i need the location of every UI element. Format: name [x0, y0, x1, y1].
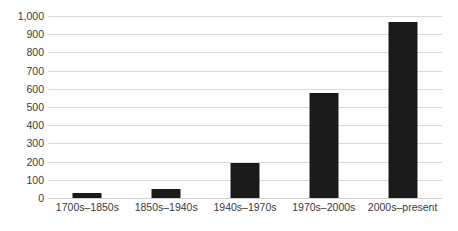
axis-baseline [48, 198, 442, 199]
y-axis-tick-label: 900 [0, 29, 44, 40]
y-axis-tick-label: 300 [0, 138, 44, 149]
y-axis: 01002003004005006007008009001,000 [0, 16, 44, 198]
x-axis-tick-label: 1700s–1850s [56, 201, 119, 214]
y-axis-tick-label: 100 [0, 175, 44, 186]
bars-layer [48, 16, 442, 198]
bar [152, 189, 181, 198]
x-axis-tick-label: 2000s–present [368, 201, 437, 214]
bar [309, 93, 338, 198]
bar-chart: 01002003004005006007008009001,000 1700s–… [0, 0, 458, 231]
y-axis-tick-label: 400 [0, 120, 44, 131]
x-axis-tick-label: 1940s–1970s [213, 201, 276, 214]
y-axis-tick-label: 0 [0, 193, 44, 204]
y-axis-tick-label: 700 [0, 65, 44, 76]
x-axis: 1700s–1850s1850s–1940s1940s–1970s1970s–2… [48, 201, 442, 221]
x-axis-tick-label: 1850s–1940s [135, 201, 198, 214]
y-axis-tick-label: 200 [0, 156, 44, 167]
y-axis-tick-label: 600 [0, 84, 44, 95]
y-axis-tick-label: 800 [0, 47, 44, 58]
bar [231, 163, 260, 198]
bar [388, 22, 417, 198]
y-axis-tick-label: 1,000 [0, 11, 44, 22]
bar [73, 193, 102, 198]
y-axis-tick-label: 500 [0, 102, 44, 113]
x-axis-tick-label: 1970s–2000s [292, 201, 355, 214]
